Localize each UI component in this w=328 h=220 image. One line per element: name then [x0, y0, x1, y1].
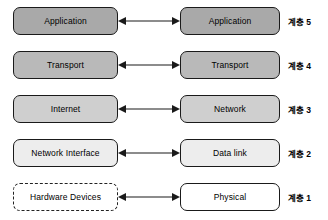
right-layer-box: Physical	[180, 183, 280, 211]
diagram-row: Network Interface Data link 계층 2	[0, 138, 328, 168]
right-layer-box: Network	[180, 95, 280, 123]
left-layer-box: Network Interface	[13, 139, 118, 167]
right-layer-box: Transport	[180, 51, 280, 79]
left-layer-box: Transport	[13, 51, 118, 79]
right-layer-label: Network	[214, 105, 246, 114]
layer-number-label: 계층 4	[288, 51, 328, 79]
layer-number-label: 계층 2	[288, 139, 328, 167]
diagram-row: Internet Network 계층 3	[0, 94, 328, 124]
diagram-row: Application Application 계층 5	[0, 6, 328, 36]
right-layer-label: Data link	[213, 149, 247, 158]
left-layer-label: Hardware Devices	[30, 193, 101, 202]
bidirectional-arrow-icon	[118, 51, 180, 79]
left-layer-box: Application	[13, 7, 118, 35]
right-layer-box: Application	[180, 7, 280, 35]
left-layer-box: Hardware Devices	[13, 183, 118, 211]
left-layer-label: Application	[44, 17, 87, 26]
right-layer-label: Application	[209, 17, 252, 26]
bidirectional-arrow-icon	[118, 183, 180, 211]
layer-comparison-diagram: Application Application 계층 5 Transport	[0, 0, 328, 220]
right-layer-label: Physical	[214, 193, 246, 202]
left-layer-box: Internet	[13, 95, 118, 123]
left-layer-label: Network Interface	[31, 149, 99, 158]
layer-number-label: 계층 3	[288, 95, 328, 123]
right-layer-label: Transport	[212, 61, 249, 70]
diagram-row: Hardware Devices Physical 계층 1	[0, 182, 328, 212]
left-layer-label: Internet	[51, 105, 81, 114]
right-layer-box: Data link	[180, 139, 280, 167]
layer-number-label: 계층 5	[288, 7, 328, 35]
bidirectional-arrow-icon	[118, 7, 180, 35]
diagram-row: Transport Transport 계층 4	[0, 50, 328, 80]
layer-number-label: 계층 1	[288, 183, 328, 211]
bidirectional-arrow-icon	[118, 139, 180, 167]
left-layer-label: Transport	[47, 61, 84, 70]
bidirectional-arrow-icon	[118, 95, 180, 123]
